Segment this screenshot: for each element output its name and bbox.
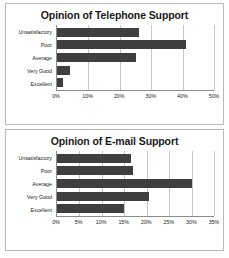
tick-label: 40% <box>177 93 188 100</box>
value-axis-tick-labels: 0%10%20%30%40%50% <box>56 93 214 105</box>
bar-series <box>57 151 214 216</box>
tick-label: 0% <box>52 93 60 100</box>
bar <box>57 66 70 75</box>
category-axis-labels: UnsatisfactoryPoorAverageVery GoodExcell… <box>8 25 55 91</box>
tick-label: 30% <box>145 93 156 100</box>
bar-row <box>57 66 214 75</box>
tick-label: 10% <box>96 219 107 226</box>
bar <box>57 154 131 163</box>
tick-label: 30% <box>186 219 197 226</box>
category-label: Average <box>8 51 55 64</box>
bar-series <box>57 25 214 90</box>
tick-label: 10% <box>82 93 93 100</box>
bar-row <box>57 166 214 175</box>
tick-label: 15% <box>118 219 129 226</box>
category-axis-labels: UnsatisfactoryPoorAverageVery GoodExcell… <box>8 151 55 217</box>
category-label: Excellent <box>8 78 55 91</box>
tick-label: 50% <box>209 93 220 100</box>
value-axis-tick-labels: 0%5%10%15%20%25%30%35% <box>56 219 214 231</box>
tick-label: 5% <box>75 219 83 226</box>
category-label: Unsatisfactory <box>8 25 55 38</box>
chart-title: Opinion of E-mail Support <box>6 136 223 147</box>
bar <box>57 166 133 175</box>
bar-row <box>57 53 214 62</box>
gridline <box>214 25 215 90</box>
bar-row <box>57 192 214 201</box>
category-label: Excellent <box>8 204 55 217</box>
gridline <box>214 151 215 216</box>
plot-area <box>56 25 214 91</box>
plot-wrapper: UnsatisfactoryPoorAverageVery GoodExcell… <box>6 151 223 250</box>
category-label: Average <box>8 177 55 190</box>
bar-row <box>57 28 214 37</box>
plot-wrapper: UnsatisfactoryPoorAverageVery GoodExcell… <box>6 25 223 124</box>
tick-label: 25% <box>164 219 175 226</box>
plot-area <box>56 151 214 217</box>
bar <box>57 204 124 213</box>
category-label: Poor <box>8 38 55 51</box>
bar-row <box>57 154 214 163</box>
bar <box>57 179 192 188</box>
tick-label: 0% <box>52 219 60 226</box>
bar <box>57 53 136 62</box>
category-label: Very Good <box>8 65 55 78</box>
bar <box>57 40 186 49</box>
category-label: Poor <box>8 164 55 177</box>
charts-page: Opinion of Telephone Support Unsatisfact… <box>0 0 229 258</box>
tick-label: 20% <box>141 219 152 226</box>
bar <box>57 28 139 37</box>
bar-row <box>57 204 214 213</box>
bar-row <box>57 40 214 49</box>
chart-panel-telephone-support: Opinion of Telephone Support Unsatisfact… <box>5 3 224 125</box>
bar <box>57 78 63 87</box>
bar-row <box>57 78 214 87</box>
tick-label: 20% <box>114 93 125 100</box>
bar <box>57 192 149 201</box>
category-label: Very Good <box>8 191 55 204</box>
chart-title: Opinion of Telephone Support <box>6 10 223 21</box>
bar-row <box>57 179 214 188</box>
category-label: Unsatisfactory <box>8 151 55 164</box>
chart-panel-email-support: Opinion of E-mail Support Unsatisfactory… <box>5 129 224 251</box>
tick-label: 35% <box>209 219 220 226</box>
